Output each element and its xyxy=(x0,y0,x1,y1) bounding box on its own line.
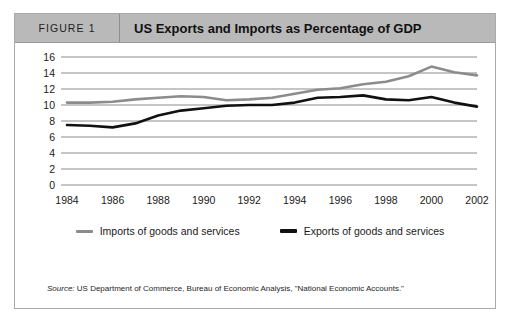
legend-swatch-icon xyxy=(280,229,297,233)
series-line-imports xyxy=(67,67,477,103)
x-axis-tick-label: 1998 xyxy=(374,194,398,206)
legend-item: Imports of goods and services xyxy=(76,225,240,237)
x-axis-tick-label: 1996 xyxy=(329,194,353,206)
x-axis-tick-label: 1994 xyxy=(283,194,307,206)
y-axis-tick-label: 10 xyxy=(43,99,55,111)
y-axis-tick-label: 0 xyxy=(49,179,55,191)
legend-item: Exports of goods and services xyxy=(280,225,445,237)
x-axis-tick-label: 1990 xyxy=(192,194,216,206)
chart-plot-area: 0246810121416 19841986198819901992199419… xyxy=(15,43,495,219)
y-axis-tick-label: 14 xyxy=(43,67,55,79)
figure-card: FIGURE 1 US Exports and Imports as Perce… xyxy=(14,13,496,309)
y-axis-tick-label: 6 xyxy=(49,131,55,143)
gridlines-group xyxy=(61,57,477,185)
chart-legend: Imports of goods and servicesExports of … xyxy=(15,225,495,237)
source-note: Source: US Department of Commerce, Burea… xyxy=(47,284,475,294)
y-axis-tick-label: 4 xyxy=(49,147,55,159)
source-text: US Department of Commerce, Bureau of Eco… xyxy=(75,284,404,293)
legend-label: Imports of goods and services xyxy=(100,225,240,237)
y-axis-tick-label: 16 xyxy=(43,51,55,63)
x-axis-tick-label: 2000 xyxy=(420,194,444,206)
y-axis-tick-label: 8 xyxy=(49,115,55,127)
y-axis-tick-labels: 0246810121416 xyxy=(43,51,55,191)
figure-header: FIGURE 1 US Exports and Imports as Perce… xyxy=(15,14,495,43)
line-chart: 0246810121416 19841986198819901992199419… xyxy=(15,43,495,219)
x-axis-tick-labels: 1984198619881990199219941996199820002002 xyxy=(55,194,489,206)
figure-number-label: FIGURE 1 xyxy=(15,14,120,42)
x-axis-tick-label: 1992 xyxy=(238,194,262,206)
y-axis-tick-label: 2 xyxy=(49,163,55,175)
data-series-group xyxy=(67,67,477,128)
legend-label: Exports of goods and services xyxy=(304,225,445,237)
x-axis-tick-label: 1986 xyxy=(101,194,125,206)
x-axis-tick-label: 2002 xyxy=(465,194,489,206)
y-axis-tick-label: 12 xyxy=(43,83,55,95)
legend-swatch-icon xyxy=(76,230,93,233)
source-label: Source: xyxy=(47,284,75,293)
x-axis-tick-label: 1984 xyxy=(55,194,79,206)
figure-title: US Exports and Imports as Percentage of … xyxy=(120,14,495,42)
x-axis-tick-label: 1988 xyxy=(146,194,170,206)
